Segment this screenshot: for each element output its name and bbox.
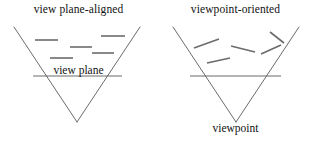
viewpoint-label: viewpoint xyxy=(157,122,314,134)
slice-segment xyxy=(261,45,281,54)
panel-viewpoint-oriented: viewpoint-oriented viewpoint xyxy=(157,0,314,142)
figure-canvas: view plane-aligned view plane viewpoint-… xyxy=(0,0,314,142)
frustum-edge-right xyxy=(236,27,299,122)
slice-segment xyxy=(270,32,284,43)
slice-segment xyxy=(194,39,219,48)
panel-view-plane-aligned: view plane-aligned view plane xyxy=(0,0,157,142)
slice-segment xyxy=(207,58,230,63)
viewpoint-oriented-diagram xyxy=(157,0,314,142)
slice-segment xyxy=(231,46,255,52)
frustum-edge-left xyxy=(173,27,236,122)
view-plane-label: view plane xyxy=(0,64,157,76)
